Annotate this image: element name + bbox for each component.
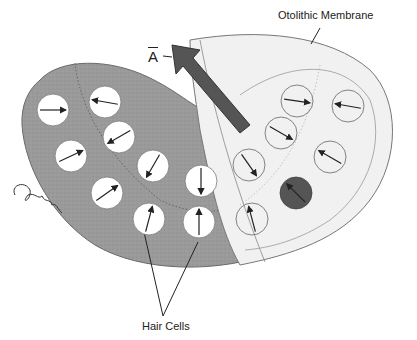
hair-cell — [280, 177, 312, 209]
highlighted-hair-cell — [280, 177, 312, 209]
vector-a-leader — [163, 56, 172, 57]
hair-cell — [137, 150, 169, 182]
membrane-leader-line — [311, 28, 320, 44]
otolithic-membrane-label: Otolithic Membrane — [278, 9, 373, 21]
hair-cell — [37, 94, 69, 126]
hair-cell — [91, 177, 123, 209]
vector-a-label: A — [148, 48, 158, 65]
hair-cell — [55, 140, 87, 172]
hair-cell — [185, 165, 217, 197]
hair-cells-label: Hair Cells — [142, 320, 190, 332]
hair-cell — [183, 206, 215, 238]
hair-cell — [89, 86, 121, 118]
hair-cell — [133, 203, 165, 235]
otolith-diagram — [0, 0, 417, 340]
hair-cell — [103, 121, 135, 153]
